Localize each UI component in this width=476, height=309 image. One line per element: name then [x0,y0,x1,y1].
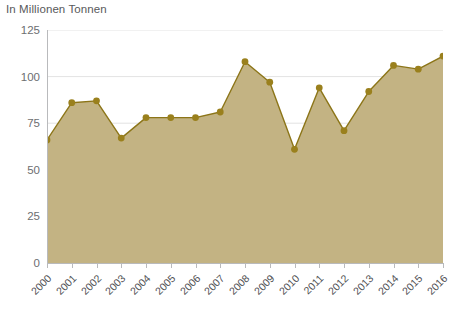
x-axis-tick-mark [146,263,147,268]
y-axis-tick-label: 25 [27,210,40,222]
x-axis-tick-mark [344,263,345,268]
x-axis-tick-mark [72,263,73,268]
x-axis-tick-mark [369,263,370,268]
area-series [47,30,443,263]
chart-container: In Millionen Tonnen 0255075100125 200020… [0,0,476,309]
x-axis-tick-mark [270,263,271,268]
y-axis-tick-label: 75 [27,117,40,129]
x-axis-tick-mark [245,263,246,268]
x-axis-tick-mark [418,263,419,268]
x-axis-tick-mark [196,263,197,268]
x-axis-tick-mark [121,263,122,268]
x-axis-tick-mark [319,263,320,268]
y-axis-tick-label: 100 [21,71,40,83]
chart-axis-title: In Millionen Tonnen [6,3,107,15]
x-axis-tick-mark [97,263,98,268]
y-axis-tick-label: 125 [21,24,40,36]
x-axis-tick-mark [443,263,444,268]
x-axis-tick-mark [394,263,395,268]
y-axis-line [47,30,48,263]
x-axis-tick-mark [171,263,172,268]
x-axis-tick-mark [47,263,48,268]
y-axis-tick-label: 50 [27,164,40,176]
y-axis-tick-label: 0 [34,257,40,269]
x-axis-tick-mark [295,263,296,268]
x-axis-tick-mark [220,263,221,268]
plot-area: 0255075100125 20002001200220032004200520… [47,30,443,263]
